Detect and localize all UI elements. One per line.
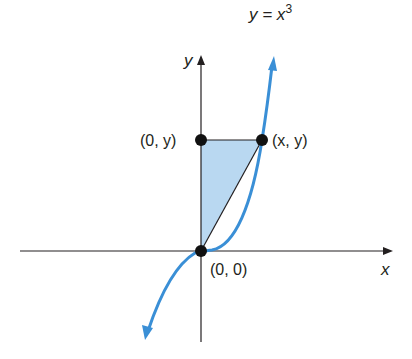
- curve-top-arrow-icon: [268, 56, 277, 71]
- y-axis-label: y: [183, 51, 194, 70]
- point-label-origin: (0, 0): [210, 261, 247, 278]
- function-exponent: 3: [285, 2, 292, 16]
- cubic-function-diagram: y = x3 y x (0, y) (x, y) (0, 0): [0, 0, 412, 359]
- point-origin: [195, 245, 207, 257]
- curve-bottom-arrow-icon: [142, 325, 153, 340]
- y-axis-arrow-icon: [197, 55, 205, 65]
- point-y-intercept: [195, 134, 207, 146]
- point-label-y-intercept: (0, y): [140, 132, 176, 149]
- x-axis-arrow-icon: [383, 247, 393, 255]
- point-label-curve: (x, y): [272, 132, 308, 149]
- point-on-curve: [256, 134, 268, 146]
- x-axis-label: x: [380, 260, 390, 279]
- function-label: y = x3: [248, 2, 292, 24]
